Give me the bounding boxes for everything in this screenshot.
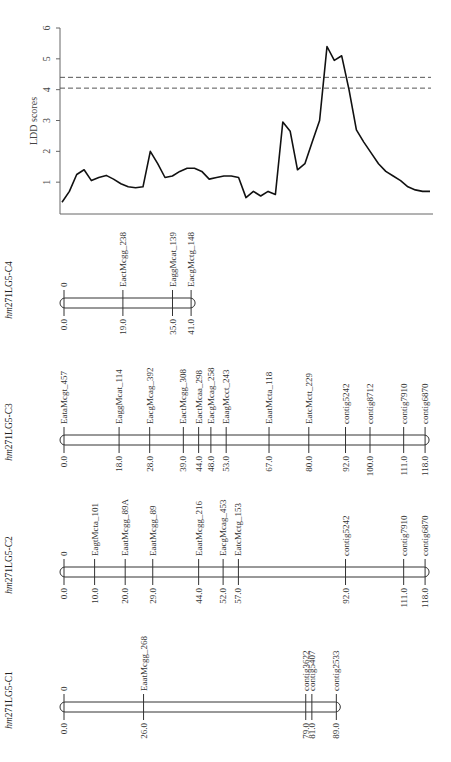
y-tick-label: 1 bbox=[41, 180, 52, 185]
y-tick-label: 3 bbox=[41, 118, 52, 123]
marker-position: 111.0 bbox=[399, 588, 409, 608]
marker-position: 111.0 bbox=[399, 456, 409, 476]
marker-position: 20.0 bbox=[120, 588, 130, 604]
marker-position: 92.0 bbox=[341, 588, 351, 604]
marker-name: contig8712 bbox=[365, 384, 375, 425]
marker-position: 100.0 bbox=[365, 456, 375, 477]
linkage-group-title: hm271LG5-C2 bbox=[4, 536, 14, 594]
marker-name: EagtMcta_101 bbox=[90, 503, 100, 556]
ldd-figure: 123456 LDD scores hm271LG5-C40.0019.0Eac… bbox=[0, 0, 451, 762]
marker: 20.0EaatMcgg_89A bbox=[120, 499, 130, 604]
marker-name: EaatMcgg_89 bbox=[148, 505, 158, 556]
linkage-group-title: hm271LG5-C1 bbox=[4, 671, 14, 729]
marker-name: contig6870 bbox=[420, 515, 430, 556]
marker-name: EactMcgg_238 bbox=[118, 232, 128, 287]
marker-name: contig5242 bbox=[341, 516, 351, 557]
linkage-group-c3: hm271LG5-C30.0EataMcgt_45718.0EaggMcat_1… bbox=[4, 367, 430, 476]
marker-position: 44.0 bbox=[194, 588, 204, 604]
marker-name: contig7910 bbox=[399, 515, 409, 556]
marker-name: EacgMctg_148 bbox=[186, 232, 196, 287]
y-tick-label: 4 bbox=[41, 87, 52, 92]
marker-position: 48.0 bbox=[206, 456, 216, 472]
marker: 67.0EaatMcta_118 bbox=[264, 371, 274, 471]
marker-position: 81.0 bbox=[307, 723, 317, 739]
marker-position: 39.0 bbox=[178, 456, 188, 472]
marker-position: 44.0 bbox=[194, 456, 204, 472]
marker: 44.0EaatMcgg_216 bbox=[194, 501, 204, 604]
marker: 29.0EaatMcgg_89 bbox=[148, 505, 158, 604]
marker-position: 18.0 bbox=[114, 456, 124, 472]
y-tick-label: 5 bbox=[41, 56, 52, 61]
marker-position: 67.0 bbox=[264, 456, 274, 472]
marker-name: EaatMcgg_216 bbox=[194, 501, 204, 556]
marker-name: contig7910 bbox=[399, 383, 409, 424]
marker: 52.0EacgMcag_453 bbox=[218, 499, 228, 604]
marker: 53.0EaagMcct_243 bbox=[221, 369, 231, 472]
marker-name: 0 bbox=[59, 551, 69, 556]
marker-position: 0.0 bbox=[59, 456, 69, 468]
marker: 35.0EaggMcat_139 bbox=[168, 232, 178, 335]
marker: 92.0contig5242 bbox=[341, 384, 351, 472]
marker: 18.0EaggMcat_114 bbox=[114, 369, 124, 472]
chromosome-bar bbox=[60, 435, 429, 445]
marker-name: contig5242 bbox=[341, 384, 351, 425]
marker-name: EaatMcta_118 bbox=[264, 371, 274, 424]
marker: 100.0contig8712 bbox=[365, 384, 375, 477]
marker-name: EacgMcag_392 bbox=[145, 368, 155, 424]
marker: 92.0contig5242 bbox=[341, 516, 351, 604]
marker: 89.0contig2533 bbox=[331, 650, 341, 739]
marker: 0.0EataMcgt_457 bbox=[59, 371, 69, 468]
marker-name: contig5407 bbox=[307, 650, 317, 691]
marker: 118.0contig6870 bbox=[420, 383, 430, 476]
marker-name: 0 bbox=[59, 686, 69, 691]
y-tick-label: 6 bbox=[41, 26, 52, 31]
marker-position: 0.0 bbox=[59, 319, 69, 331]
marker-name: EaagMcct_243 bbox=[221, 369, 231, 424]
marker: 39.0EactMcgg_308 bbox=[178, 369, 188, 472]
marker-name: EacgMcag_453 bbox=[218, 499, 228, 556]
marker: 19.0EactMcgg_238 bbox=[118, 232, 128, 335]
ldd-score-line bbox=[62, 47, 430, 203]
marker: 28.0EacgMcag_392 bbox=[145, 368, 155, 472]
y-axis-label: LDD scores bbox=[28, 97, 39, 145]
marker-position: 53.0 bbox=[221, 456, 231, 472]
marker-name: EactMcgg_308 bbox=[178, 369, 188, 424]
marker-position: 41.0 bbox=[186, 319, 196, 335]
marker: 81.0contig5407 bbox=[307, 650, 317, 739]
chromosome-bar bbox=[60, 567, 429, 577]
marker-position: 92.0 bbox=[341, 456, 351, 472]
marker-name: contig6870 bbox=[420, 383, 430, 424]
marker: 111.0contig7910 bbox=[399, 383, 409, 476]
marker: 80.0EatcMctt_229 bbox=[304, 373, 314, 472]
marker-name: EataMcgt_457 bbox=[59, 371, 69, 424]
marker-name: EaggMcat_139 bbox=[168, 232, 178, 287]
marker: 41.0EacgMctg_148 bbox=[186, 232, 196, 335]
marker-name: EaatMcgg_89A bbox=[120, 499, 130, 556]
marker: 111.0contig7910 bbox=[399, 515, 409, 608]
threshold-lines bbox=[60, 77, 431, 88]
marker-name: EatcMctt_229 bbox=[304, 373, 314, 424]
chromosome-bar bbox=[60, 298, 195, 308]
y-tick-label: 2 bbox=[41, 149, 52, 154]
linkage-group-title: hm271LG5-C4 bbox=[4, 261, 14, 319]
marker-name: contig2533 bbox=[331, 650, 341, 691]
marker-name: EactMcaa_298 bbox=[194, 370, 204, 424]
marker-name: 0 bbox=[59, 282, 69, 287]
marker-name: EacgMcag_258 bbox=[206, 367, 216, 424]
marker: 48.0EacgMcag_258 bbox=[206, 367, 216, 472]
marker-position: 57.0 bbox=[233, 588, 243, 604]
marker: 44.0EactMcaa_298 bbox=[194, 370, 204, 472]
marker-position: 118.0 bbox=[420, 456, 430, 476]
marker-name: EatcMctg_153 bbox=[233, 503, 243, 556]
linkage-group-c2: hm271LG5-C20.0010.0EagtMcta_10120.0EaatM… bbox=[4, 499, 430, 608]
linkage-groups: hm271LG5-C40.0019.0EactMcgg_23835.0EaggM… bbox=[4, 232, 430, 739]
y-axis-ticks: 123456 bbox=[41, 26, 60, 185]
marker: 26.0EaatMcgg_268 bbox=[139, 636, 149, 739]
marker-position: 28.0 bbox=[145, 456, 155, 472]
marker-position: 0.0 bbox=[59, 588, 69, 600]
linkage-group-c1: hm271LG5-C10.0026.0EaatMcgg_26879.0conti… bbox=[4, 636, 341, 739]
marker-name: EaggMcat_114 bbox=[114, 369, 124, 424]
marker-position: 0.0 bbox=[59, 723, 69, 735]
marker: 57.0EatcMctg_153 bbox=[233, 503, 243, 604]
marker-position: 118.0 bbox=[420, 588, 430, 608]
